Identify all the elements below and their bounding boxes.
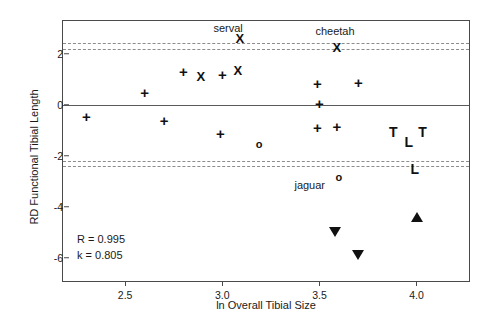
stat-correlation: R = 0.995 — [77, 233, 125, 245]
data-point-plus-12: + — [313, 119, 322, 134]
x-axis-tick-3.5: 3.5 — [289, 281, 349, 301]
annotation-jaguar: jaguar — [294, 179, 325, 191]
annotation-serval: serval — [213, 22, 242, 34]
data-point-plus-2: + — [160, 113, 169, 128]
data-point-circle-16: o — [336, 172, 343, 183]
data-point-T-19: T — [418, 125, 427, 139]
data-point-plus-10: + — [313, 75, 322, 90]
data-point-plus-5: + — [218, 67, 227, 82]
x-axis-tick-4.0: 4.0 — [387, 281, 447, 301]
plot-area: ++++X++XXo++++X+oTLTLservalcheetahjaguar… — [62, 20, 470, 282]
y-axis-tick--4: -4 — [17, 201, 63, 212]
data-point-plus-11: + — [315, 96, 324, 111]
data-point-L-20: L — [410, 162, 419, 176]
data-point-plus-15: + — [354, 75, 363, 90]
data-point-x-14: X — [333, 41, 342, 54]
data-point-triangle-down-22 — [352, 250, 364, 260]
data-point-triangle-down-21 — [329, 227, 341, 237]
confidence-band-line-1 — [63, 43, 469, 44]
y-axis-tick--2: -2 — [17, 151, 63, 162]
data-point-L-18: L — [405, 135, 414, 149]
data-point-x-7: X — [234, 63, 243, 76]
x-axis-tick-3.0: 3.0 — [192, 281, 252, 301]
data-point-triangle-up-23 — [411, 212, 423, 222]
y-axis-tick-0: 0 — [17, 100, 63, 111]
confidence-band-line-4 — [63, 166, 469, 167]
stat-slope: k = 0.805 — [77, 249, 123, 261]
data-point-T-17: T — [389, 125, 398, 139]
confidence-band-line-2 — [63, 49, 469, 50]
data-point-x-4: X — [197, 70, 206, 83]
y-axis-tick-2: 2 — [17, 49, 63, 60]
x-axis-tick-2.5: 2.5 — [95, 281, 155, 301]
data-point-plus-3: + — [179, 64, 188, 79]
confidence-band-line-3 — [63, 161, 469, 162]
zero-reference-line — [63, 105, 469, 106]
y-axis-tick--6: -6 — [17, 252, 63, 263]
data-point-plus-0: + — [82, 108, 91, 123]
scatter-plot-figure: RD Functional Tibial Length ln Overall T… — [0, 0, 495, 322]
data-point-plus-1: + — [140, 84, 149, 99]
data-point-plus-6: + — [216, 126, 225, 141]
annotation-cheetah: cheetah — [315, 25, 354, 37]
data-point-circle-9: o — [256, 138, 263, 149]
data-point-plus-13: + — [333, 119, 342, 134]
plot-canvas: ++++X++XXo++++X+oTLTLservalcheetahjaguar… — [63, 21, 469, 281]
